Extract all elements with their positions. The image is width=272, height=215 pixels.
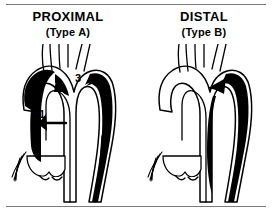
panel-proximal-title: PROXIMAL [0, 10, 136, 23]
panel-distal-heading: DISTAL (Type B) [136, 10, 272, 38]
panel-proximal-subtitle: (Type A) [0, 27, 136, 38]
vessel-wisps-proximal [12, 152, 26, 181]
panel-proximal: PROXIMAL (Type A) [0, 6, 136, 206]
aortic-root-proximal [27, 156, 65, 180]
aortic-root-distal [163, 156, 201, 180]
figure-top-rule [6, 4, 266, 5]
callout-label-3: 3 [75, 72, 81, 84]
panel-proximal-artwork: 1 2 3 [0, 44, 136, 206]
panel-proximal-heading: PROXIMAL (Type A) [0, 10, 136, 38]
panel-distal: DISTAL (Type B) [136, 6, 272, 206]
figure-aortic-dissection: PROXIMAL (Type A) [0, 0, 272, 215]
panel-distal-artwork [136, 44, 272, 206]
panel-distal-title: DISTAL [136, 10, 272, 23]
panel-container: PROXIMAL (Type A) [0, 6, 272, 206]
figure-bottom-rule [6, 206, 266, 207]
callout-label-2: 2 [41, 72, 47, 84]
panel-distal-subtitle: (Type B) [136, 27, 272, 38]
callout-label-1: 1 [39, 108, 45, 120]
vessel-wisps-distal [148, 152, 162, 181]
